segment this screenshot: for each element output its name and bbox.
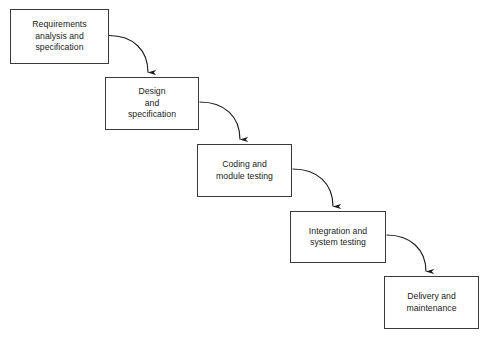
stage-label-line: Coding and — [222, 159, 267, 171]
stage-label-line: system testing — [310, 237, 366, 249]
stage-label-line: specification — [35, 42, 83, 54]
stage-label-line: specification — [128, 109, 176, 121]
stage-label-line: Design — [138, 86, 165, 98]
stage-box-coding: Coding and module testing — [197, 144, 292, 197]
waterfall-diagram: Requirements analysis and specification … — [0, 0, 486, 340]
connector-design-to-coding — [200, 102, 241, 140]
stage-label-line: and — [145, 98, 160, 110]
stage-label-line: Requirements — [32, 19, 86, 31]
stage-label-line: module testing — [216, 171, 273, 183]
stage-label-line: analysis and — [35, 31, 84, 43]
stage-box-integration: Integration and system testing — [290, 211, 386, 263]
stage-label-line: Delivery and — [407, 291, 456, 303]
stage-label-line: maintenance — [407, 303, 457, 315]
stage-box-design: Design and specification — [105, 77, 199, 130]
stage-box-requirements: Requirements analysis and specification — [10, 9, 109, 64]
connector-coding-to-integration — [293, 169, 334, 207]
stage-box-delivery: Delivery and maintenance — [384, 276, 479, 329]
connector-requirements-to-design — [109, 36, 148, 73]
stage-label-line: Integration and — [309, 226, 367, 238]
connector-integration-to-delivery — [387, 235, 427, 272]
